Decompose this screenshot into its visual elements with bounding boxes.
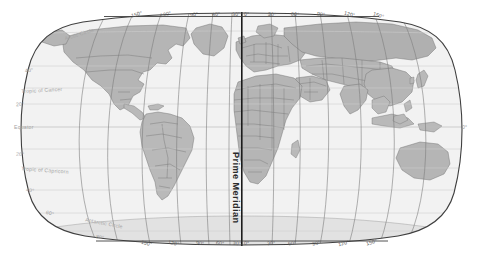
world-map-figure: 150° 120° 90° 60° 30° 0° 30° 60° 90° 120…: [0, 0, 483, 260]
landmass-korea: [410, 77, 414, 84]
world-map-graphic: [0, 0, 483, 260]
landmass-new-zealand: [458, 174, 466, 188]
